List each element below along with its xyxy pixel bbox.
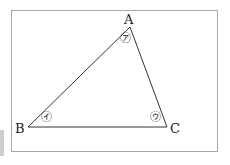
vertex-label-a: A [124, 13, 133, 26]
angle-mark-b: ㋑ [41, 112, 52, 123]
angle-mark-a: ㋐ [120, 33, 131, 44]
triangle-figure [0, 0, 230, 165]
vertex-label-c: C [170, 122, 180, 135]
vertex-label-b: B [15, 122, 25, 135]
angle-mark-c: ㋒ [150, 112, 161, 123]
